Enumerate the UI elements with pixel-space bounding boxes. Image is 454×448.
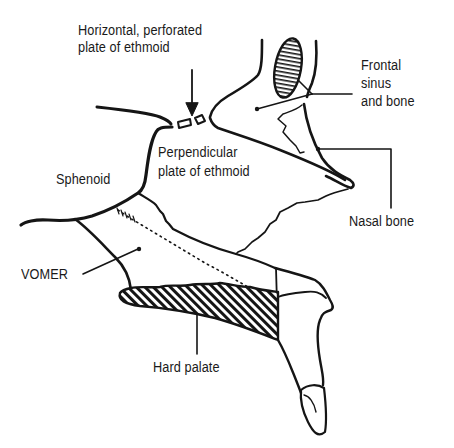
label-frontal-sinus-and-bone: Frontal sinus and bone — [361, 56, 415, 110]
perpendicular-plate-border — [236, 189, 348, 254]
label-perpendicular-plate: Perpendicular plate of ethmoid — [158, 142, 250, 180]
nasal-bone-outline — [304, 104, 354, 188]
label-arrowhead — [186, 103, 198, 116]
alveolar-outline — [278, 340, 301, 393]
label-sphenoid: Sphenoid — [56, 170, 110, 187]
sphenoethmoidal-suture — [138, 193, 275, 268]
premaxilla-outline — [275, 268, 333, 385]
label-hard-palate: Hard palate — [153, 358, 220, 375]
nasal-septum-diagram: Horizontal, perforated plate of ethmoid … — [0, 0, 454, 448]
nasal-bone-leader-dot — [316, 147, 320, 151]
frontonasal-suture — [278, 105, 304, 153]
label-horizontal-plate: Horizontal, perforated plate of ethmoid — [78, 21, 202, 55]
incisor-outline — [301, 385, 326, 434]
incisor-inner-line — [304, 395, 316, 412]
label-vomer: VOMER — [21, 265, 68, 282]
cribriform-plate-piece-1 — [178, 119, 191, 128]
label-nasal-bone: Nasal bone — [349, 212, 414, 229]
hard-palate-region — [120, 283, 278, 340]
vomer-posterior-border — [75, 219, 131, 290]
frontal-anterior-line — [307, 41, 316, 97]
frontal-sinus — [270, 36, 306, 100]
vomer-dotted-line — [118, 210, 262, 294]
frontal-leader-dot-2 — [255, 107, 259, 111]
cribriform-plate-piece-2 — [195, 115, 205, 124]
frontal-bone-outline — [210, 40, 262, 117]
vomer-leader-dot — [137, 247, 141, 251]
premaxilla-inner-line — [278, 292, 326, 298]
cranial-floor-line — [97, 107, 171, 124]
